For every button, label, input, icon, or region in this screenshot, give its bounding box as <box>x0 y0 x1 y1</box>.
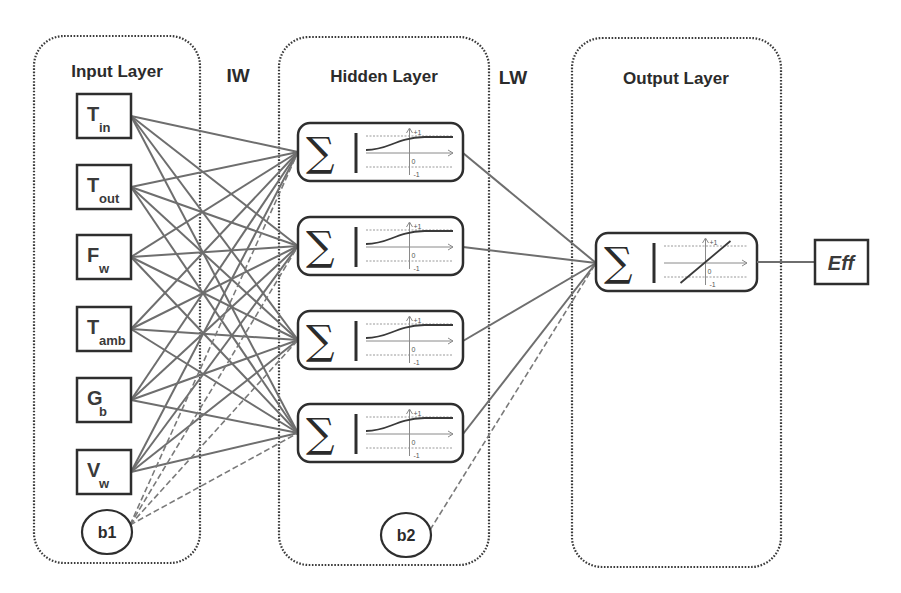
svg-text:0: 0 <box>708 268 712 275</box>
input-node-symbol: T <box>87 174 99 196</box>
weight-edge <box>131 329 298 340</box>
weight-edge <box>463 263 596 341</box>
sigmoid-neuron: ∑+10-1 <box>298 123 463 181</box>
bias-node-b1: b1 <box>82 510 132 554</box>
summation-icon: ∑ <box>306 223 335 269</box>
input-node-subscript: in <box>99 120 111 135</box>
hidden-layer-title: Hidden Layer <box>330 67 438 86</box>
weight-edge <box>131 152 298 472</box>
svg-text:+1: +1 <box>414 410 422 417</box>
input-node: Fw <box>77 235 131 279</box>
svg-text:+1: +1 <box>710 239 718 246</box>
input-node-subscript: out <box>99 191 120 206</box>
svg-text:-1: -1 <box>414 171 420 178</box>
input-node: Vw <box>77 450 131 494</box>
input-node-subscript: amb <box>99 333 126 348</box>
input-layer-title: Input Layer <box>71 62 163 81</box>
input-hidden-connections <box>130 116 298 525</box>
output-node-label: Eff <box>828 252 857 274</box>
hidden-neurons: ∑+10-1∑+10-1∑+10-1∑+10-1 <box>298 123 463 462</box>
summation-icon: ∑ <box>604 239 633 285</box>
output-layer-title: Output Layer <box>623 69 729 88</box>
input-node-symbol: F <box>87 244 99 266</box>
weight-edge <box>131 246 298 257</box>
input-node-subscript: w <box>98 261 110 276</box>
bias-edge <box>130 340 298 525</box>
input-node-symbol: T <box>87 316 99 338</box>
sigmoid-neuron: ∑+10-1 <box>298 404 463 462</box>
svg-text:+1: +1 <box>414 223 422 230</box>
weight-edge <box>131 340 298 400</box>
neural-network-diagram: Input Layer Hidden Layer Output Layer IW… <box>0 0 901 593</box>
svg-text:0: 0 <box>412 252 416 259</box>
svg-text:0: 0 <box>412 158 416 165</box>
summation-icon: ∑ <box>306 129 335 175</box>
output-layer-container <box>572 38 781 567</box>
input-node: Tin <box>77 94 131 138</box>
weight-edge <box>131 116 298 340</box>
summation-icon: ∑ <box>306 317 335 363</box>
svg-text:+1: +1 <box>414 129 422 136</box>
weight-edge <box>463 263 596 434</box>
svg-text:0: 0 <box>412 439 416 446</box>
output-neuron: ∑+10-1 <box>596 233 757 291</box>
svg-text:+1: +1 <box>414 317 422 324</box>
sigmoid-neuron: ∑+10-1 <box>298 311 463 369</box>
svg-text:-1: -1 <box>710 281 716 288</box>
bias-b2-label: b2 <box>397 527 416 544</box>
weight-edge <box>463 247 596 263</box>
input-node-subscript: w <box>98 476 110 491</box>
svg-text:-1: -1 <box>414 452 420 459</box>
bias-node-b2: b2 <box>381 513 431 557</box>
summation-icon: ∑ <box>306 410 335 456</box>
bias-edge <box>130 433 298 525</box>
weight-edge <box>131 116 298 152</box>
sigmoid-neuron: ∑+10-1 <box>298 217 463 275</box>
hidden-layer-container <box>279 37 489 565</box>
input-nodes: TinToutFwTambGbVw <box>77 94 131 494</box>
layer-weights-label: LW <box>499 67 528 88</box>
svg-text:-1: -1 <box>414 265 420 272</box>
input-node: Tamb <box>77 307 131 351</box>
bias-b1-label: b1 <box>98 524 117 541</box>
svg-text:-1: -1 <box>414 359 420 366</box>
linear-neuron: ∑+10-1 <box>596 233 757 291</box>
input-node-subscript: b <box>99 404 107 419</box>
svg-text:0: 0 <box>412 346 416 353</box>
weight-edge <box>463 153 596 263</box>
input-node-symbol: T <box>87 103 99 125</box>
weight-edge <box>131 187 298 246</box>
input-node: Gb <box>77 378 131 422</box>
weight-edge <box>131 152 298 400</box>
input-weights-label: IW <box>226 65 249 86</box>
input-node: Tout <box>77 165 131 209</box>
